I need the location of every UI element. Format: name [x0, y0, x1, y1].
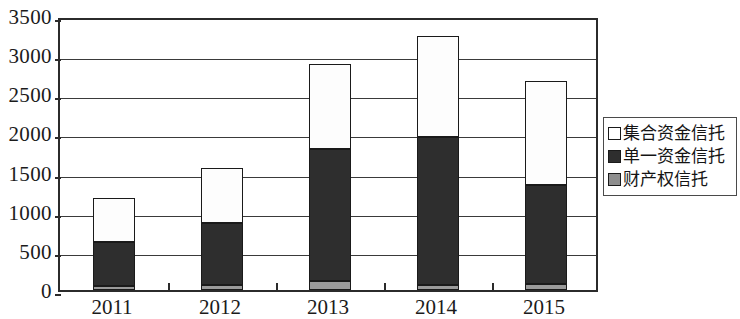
bar-segment-2014-单一资金信托 [417, 137, 459, 285]
y-axis-tickmark [55, 59, 61, 61]
bar-segment-2013-集合资金信托 [309, 64, 351, 149]
bar-segment-2014-集合资金信托 [417, 36, 459, 137]
x-axis-tickmark [492, 283, 494, 290]
y-axis-tick-label: 1500 [0, 164, 52, 185]
y-axis-tickmark [55, 255, 61, 257]
bar-segment-2015-单一资金信托 [525, 185, 567, 284]
x-axis-tick-label: 2013 [288, 296, 368, 318]
bar-segment-2011-单一资金信托 [93, 242, 135, 286]
y-axis-tickmark [55, 20, 61, 22]
bar-segment-2012-单一资金信托 [201, 223, 243, 286]
bar-segment-2011-财产权信托 [93, 286, 135, 290]
legend-item-单一资金信托[interactable]: 单一资金信托 [608, 145, 733, 168]
x-axis-tick-label: 2011 [72, 296, 152, 318]
bar-segment-2012-财产权信托 [201, 285, 243, 290]
legend-swatch-gray-icon [608, 173, 621, 186]
chart-legend: 集合资金信托单一资金信托财产权信托 [603, 117, 737, 196]
y-axis-tick-label: 3500 [0, 7, 52, 28]
gridline [60, 59, 596, 60]
x-axis-tickmark [168, 283, 170, 290]
bar-2015 [525, 81, 567, 290]
legend-label: 单一资金信托 [623, 147, 725, 166]
bar-2014 [417, 36, 459, 290]
y-axis-tick-label: 2500 [0, 85, 52, 106]
y-axis-tickmark [55, 177, 61, 179]
y-axis-tickmark [55, 137, 61, 139]
bar-segment-2013-财产权信托 [309, 281, 351, 290]
y-axis-tick-label: 2000 [0, 124, 52, 145]
x-axis-tick-label: 2012 [180, 296, 260, 318]
legend-label: 财产权信托 [623, 170, 708, 189]
x-axis-tick-label: 2015 [504, 296, 584, 318]
x-axis-tickmark [276, 283, 278, 290]
bar-segment-2011-集合资金信托 [93, 198, 135, 242]
y-axis-tick-label: 500 [0, 242, 52, 263]
plot-area [58, 18, 598, 292]
bar-2012 [201, 168, 243, 290]
y-axis-tick-label: 0 [0, 281, 52, 302]
y-axis: 0500100015002000250030003500 [0, 0, 52, 319]
bar-2013 [309, 64, 351, 290]
bar-segment-2014-财产权信托 [417, 285, 459, 290]
legend-swatch-white-icon [608, 127, 621, 140]
legend-swatch-black-icon [608, 150, 621, 163]
bar-segment-2015-集合资金信托 [525, 81, 567, 184]
legend-item-集合资金信托[interactable]: 集合资金信托 [608, 122, 733, 145]
stacked-bar-chart: 0500100015002000250030003500 20112012201… [0, 0, 740, 319]
x-axis-tickmark [384, 283, 386, 290]
bar-segment-2015-财产权信托 [525, 284, 567, 290]
y-axis-tickmark [55, 294, 61, 296]
bar-segment-2013-单一资金信托 [309, 149, 351, 281]
x-axis-tick-label: 2014 [396, 296, 476, 318]
y-axis-tickmark [55, 98, 61, 100]
y-axis-tickmark [55, 216, 61, 218]
y-axis-tick-label: 3000 [0, 46, 52, 67]
legend-item-财产权信托[interactable]: 财产权信托 [608, 168, 733, 191]
bar-2011 [93, 198, 135, 290]
bar-segment-2012-集合资金信托 [201, 168, 243, 223]
legend-label: 集合资金信托 [623, 124, 725, 143]
y-axis-tick-label: 1000 [0, 203, 52, 224]
